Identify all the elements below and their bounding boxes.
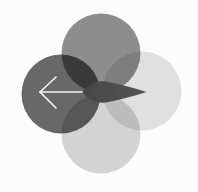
figure-svg (0, 0, 198, 192)
overlapping-circles-figure (0, 0, 198, 192)
